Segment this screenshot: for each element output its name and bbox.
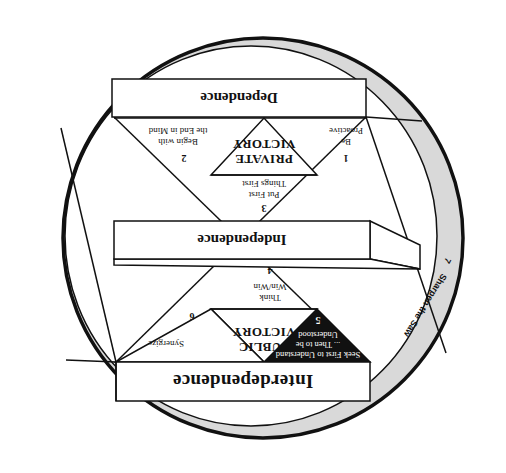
habit-4: Think Win/Win 4 xyxy=(253,265,286,303)
public-victory-label-2: VICTORY xyxy=(232,325,295,340)
habit-1: 1 Be Proactive xyxy=(329,126,363,164)
svg-text:Proactive: Proactive xyxy=(329,126,363,136)
seven-habits-diagram: Interdependence Independence Dependence … xyxy=(0,0,506,473)
private-victory-label-2: VICTORY xyxy=(232,137,295,152)
private-victory-label-1: PRIVATE xyxy=(235,152,293,167)
interdependence-label: Interdependence xyxy=(173,371,314,392)
dependence-label: Dependence xyxy=(200,90,278,106)
svg-text:4: 4 xyxy=(268,265,273,276)
svg-text:the End in Mind: the End in Mind xyxy=(148,126,207,136)
svg-text:Seek First to Understand: Seek First to Understand xyxy=(275,350,360,360)
svg-text:5: 5 xyxy=(316,315,321,326)
svg-text:Put First: Put First xyxy=(248,190,279,200)
svg-text:... Then to be: ... Then to be xyxy=(295,340,340,350)
svg-text:1: 1 xyxy=(344,153,349,164)
svg-text:Begin with: Begin with xyxy=(158,137,198,147)
svg-text:6: 6 xyxy=(190,311,195,322)
svg-text:Be: Be xyxy=(341,137,351,147)
svg-text:Understood: Understood xyxy=(297,330,337,340)
svg-text:Things First: Things First xyxy=(242,179,286,189)
svg-text:3: 3 xyxy=(262,203,267,214)
svg-text:Synergize: Synergize xyxy=(148,339,184,349)
svg-text:Think: Think xyxy=(259,293,281,303)
svg-text:Win/Win: Win/Win xyxy=(253,282,286,292)
svg-text:2: 2 xyxy=(182,153,187,164)
independence-label: Independence xyxy=(197,232,287,248)
habit-3: 3 Put First Things First xyxy=(242,179,286,214)
